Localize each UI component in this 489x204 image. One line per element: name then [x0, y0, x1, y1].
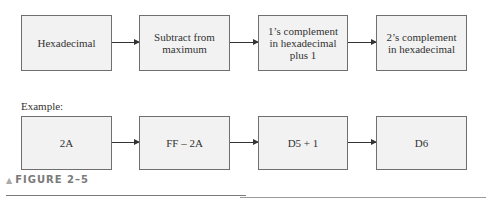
example-arrow — [230, 142, 258, 143]
flow-arrow — [230, 42, 258, 43]
example-label: Example: — [21, 100, 63, 112]
caption-rule-extension — [240, 197, 486, 198]
example-box-label: FF – 2A — [166, 137, 203, 149]
figure-caption-text: FIGURE 2–5 — [15, 174, 89, 185]
caption-rule — [6, 195, 246, 196]
example-box-label: 2A — [60, 137, 73, 149]
example-arrow — [348, 142, 376, 143]
flow-box-label: Subtract from maximum — [150, 31, 220, 55]
example-box-label: D5 + 1 — [288, 137, 319, 149]
flow-box-label: Hexadecimal — [37, 37, 95, 49]
flow-box-label: 1’s complement in hexadecimal plus 1 — [267, 25, 339, 61]
example-box-d6: D6 — [376, 116, 467, 170]
flow-box-subtract: Subtract from maximum — [139, 15, 230, 71]
flow-arrow — [112, 42, 139, 43]
example-box-d5-plus-1: D5 + 1 — [258, 116, 348, 170]
flow-box-twos-complement: 2’s complement in hexadecimal — [376, 15, 467, 71]
flow-arrow — [348, 42, 376, 43]
example-arrow — [112, 142, 139, 143]
flow-box-ones-complement: 1’s complement in hexadecimal plus 1 — [258, 15, 348, 71]
example-box-2a: 2A — [21, 116, 112, 170]
example-box-ff-minus-2a: FF – 2A — [139, 116, 230, 170]
flow-box-label: 2’s complement in hexadecimal — [384, 31, 460, 55]
triangle-marker-icon: ▲ — [6, 176, 13, 185]
example-box-label: D6 — [415, 137, 428, 149]
figure-caption: ▲FIGURE 2–5 — [6, 174, 89, 185]
flow-box-hexadecimal: Hexadecimal — [21, 15, 112, 71]
